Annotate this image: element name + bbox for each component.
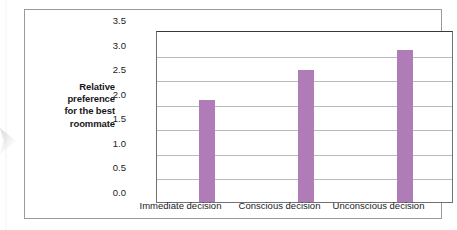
x-axis-tick-label: Immediate decision xyxy=(140,200,222,211)
y-axis-tick-label: 2.0 xyxy=(100,90,126,100)
x-axis-tick-label: Unconscious decision xyxy=(333,200,425,211)
y-axis-tick-label: 3.5 xyxy=(100,16,126,26)
y-axis-tick-label: 0.0 xyxy=(100,188,126,198)
y-axis-tick-label: 2.5 xyxy=(100,65,126,75)
page-fold-artifact xyxy=(5,0,8,230)
figure-frame: Relative preference for the best roommat… xyxy=(24,9,442,219)
bar-series xyxy=(157,32,452,202)
y-axis-tick-label: 3.0 xyxy=(100,41,126,51)
plot-area xyxy=(156,31,453,203)
y-axis-tick-label: 1.5 xyxy=(100,114,126,124)
bar xyxy=(298,70,314,202)
bar xyxy=(397,50,413,202)
page-edge-artifact xyxy=(0,128,16,154)
x-axis-tick-label: Conscious decision xyxy=(239,200,321,211)
y-axis-tick-label: 1.0 xyxy=(100,139,126,149)
y-axis-tick-label: 0.5 xyxy=(100,163,126,173)
bar xyxy=(199,100,215,202)
